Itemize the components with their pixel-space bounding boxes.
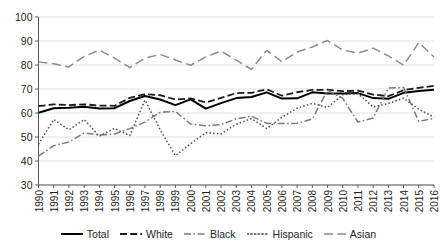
legend-label: Total [87,228,109,240]
legend-label: Black [210,228,236,240]
plot-area: 30405060708090100 [0,0,437,200]
legend-swatch-asian [324,229,346,239]
chart-legend: TotalWhiteBlackHispanicAsian [0,228,437,240]
y-tick-label: 30 [21,179,33,191]
legend-label: Asian [350,228,376,240]
legend-swatch-white [120,229,142,239]
y-tick-label: 50 [21,131,33,143]
plot-svg: 30405060708090100 [0,0,437,200]
series-line-hispanic [39,94,435,156]
legend-item-white[interactable]: White [120,228,173,240]
legend-item-asian[interactable]: Asian [324,228,376,240]
y-axis-tick-labels: 30405060708090100 [15,11,33,191]
legend-swatch-total [61,229,83,239]
legend-swatch-hispanic [247,229,269,239]
series-line-total [39,90,435,113]
legend-swatch-black [184,229,206,239]
legend-label: White [146,228,173,240]
gridlines [39,17,435,185]
data-series-group [39,41,435,157]
y-tick-marks [35,17,39,185]
legend-item-black[interactable]: Black [184,228,236,240]
legend-label: Hispanic [273,228,313,240]
legend-item-total[interactable]: Total [61,228,109,240]
y-tick-label: 100 [15,11,33,23]
y-tick-label: 70 [21,83,33,95]
y-tick-label: 60 [21,107,33,119]
y-tick-label: 40 [21,155,33,167]
legend-item-hispanic[interactable]: Hispanic [247,228,313,240]
y-tick-label: 80 [21,59,33,71]
y-tick-label: 90 [21,35,33,47]
